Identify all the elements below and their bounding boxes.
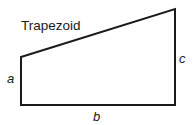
side-label-a: a (7, 71, 14, 86)
side-label-b: b (93, 109, 100, 124)
diagram-title: Trapezoid (21, 18, 81, 33)
trapezoid-diagram: Trapezoid a b c (0, 0, 193, 125)
side-label-c: c (179, 51, 186, 66)
